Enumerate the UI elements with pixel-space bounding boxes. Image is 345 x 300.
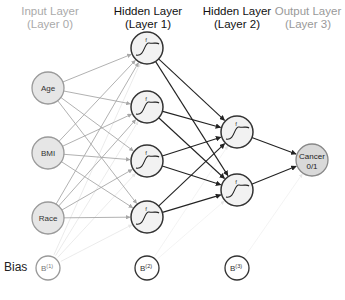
hidden2-neuron-2 bbox=[221, 174, 253, 206]
hidden-edge bbox=[161, 137, 221, 156]
bias-edge bbox=[158, 201, 224, 258]
hidden-edge bbox=[157, 144, 224, 207]
input-edge bbox=[57, 99, 137, 203]
hidden2-neuron-1 bbox=[221, 116, 253, 148]
hidden1-neuron-3 bbox=[131, 145, 163, 177]
input-edge bbox=[62, 154, 130, 159]
input-edge bbox=[58, 120, 136, 208]
input-edge bbox=[62, 217, 130, 218]
input-node-label: Age bbox=[41, 84, 56, 93]
hidden-edge bbox=[161, 111, 221, 128]
hidden1-neuron-4 bbox=[131, 201, 163, 233]
hidden-edge bbox=[158, 58, 225, 121]
hidden1-neuron-1 bbox=[131, 32, 163, 64]
input-node-label: Race bbox=[39, 214, 58, 223]
output-label: Cancer bbox=[299, 152, 325, 161]
input-edge bbox=[60, 169, 132, 210]
bias-edge bbox=[155, 146, 228, 256]
output-label-value: 0/1 bbox=[306, 162, 318, 171]
hidden1-neuron-2 bbox=[131, 91, 163, 123]
bias-edge bbox=[245, 174, 302, 256]
input-edge bbox=[61, 54, 131, 82]
output-edge bbox=[250, 166, 296, 184]
hidden-edge bbox=[155, 60, 228, 175]
neural-network-diagram: AgeBMIRaceffffffCancer0/1B(1)B(2)B(3) bbox=[0, 0, 345, 300]
input-node-label: BMI bbox=[41, 149, 55, 158]
output-edge bbox=[250, 137, 296, 154]
hidden-edge bbox=[161, 195, 221, 213]
